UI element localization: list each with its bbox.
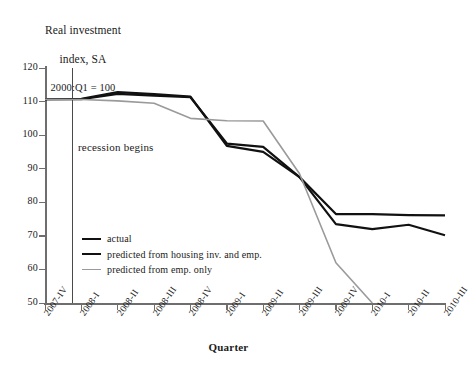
chart-legend: actual predicted from housing inv. and e…: [82, 231, 262, 278]
legend-swatch-actual-icon: [82, 238, 101, 240]
series-line-actual: [45, 94, 445, 216]
legend-label-emp-only: predicted from emp. only: [107, 262, 212, 278]
legend-item-emp-only: predicted from emp. only: [82, 262, 262, 278]
legend-label-housing-emp: predicted from housing inv. and emp.: [107, 247, 262, 263]
legend-item-actual: actual: [82, 231, 262, 247]
x-axis-title: Quarter: [0, 341, 457, 353]
legend-swatch-emp-only-icon: [82, 269, 101, 270]
legend-item-housing-emp: predicted from housing inv. and emp.: [82, 247, 262, 263]
legend-swatch-housing-emp-icon: [82, 253, 101, 255]
legend-label-actual: actual: [107, 231, 132, 247]
